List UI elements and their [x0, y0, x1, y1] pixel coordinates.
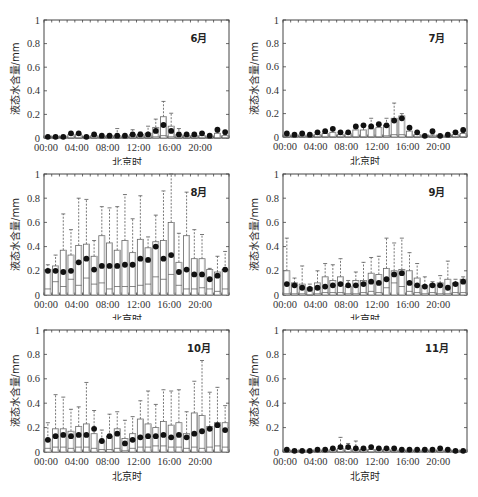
box-plot-item [353, 441, 359, 452]
month-label: 7月 [429, 33, 446, 44]
mean-marker [137, 256, 143, 262]
box-plot-item [292, 448, 298, 454]
box-plot-item [145, 126, 151, 138]
box-plot-item [207, 268, 213, 295]
box-plot-item [130, 130, 136, 138]
y-tick-label: 0.4 [27, 85, 41, 96]
y-axis-label: 液态水含量/mm [9, 198, 21, 271]
mean-marker [391, 272, 397, 278]
box-plot-item [330, 265, 336, 295]
mean-marker [284, 131, 290, 137]
box-plot-item [53, 255, 59, 295]
mean-marker [53, 433, 59, 439]
box-plot-item [99, 133, 105, 139]
box-plot-item [114, 207, 120, 295]
box-plot-item [292, 132, 298, 138]
mean-marker [292, 132, 298, 138]
box-plot-item [91, 411, 97, 452]
box-plot-item [299, 266, 305, 295]
box-plot-item [284, 447, 290, 453]
mean-marker [376, 445, 382, 451]
mean-marker [222, 267, 228, 273]
box-plot-item [191, 381, 197, 452]
box-plot-item [407, 253, 413, 295]
mean-marker [399, 270, 405, 276]
mean-marker [215, 127, 221, 133]
box-plot-item [315, 271, 321, 295]
mean-marker [99, 133, 105, 139]
mean-marker [315, 129, 321, 135]
box-plot-item [91, 241, 97, 295]
mean-marker [114, 263, 120, 269]
box-plot-item [315, 129, 321, 137]
mean-marker [460, 279, 466, 285]
x-tick-label: 04:00 [304, 141, 328, 152]
box-plot-item [168, 391, 174, 452]
y-tick-label: 0.8 [266, 38, 279, 49]
month-label: 11月 [425, 343, 449, 354]
box-plot-item [122, 420, 128, 452]
mean-marker [83, 432, 89, 438]
mean-marker [315, 447, 321, 453]
mean-marker [453, 281, 459, 287]
y-tick-label: 0.8 [266, 349, 279, 360]
x-tick-label: 20:00 [188, 142, 212, 153]
mean-marker [168, 252, 174, 258]
x-axis-label: 北京时 [350, 470, 380, 481]
box-plot-item [284, 131, 290, 137]
box-plot-item [368, 118, 374, 137]
y-tick-label: 1 [35, 169, 40, 180]
box-plot-item [153, 404, 159, 452]
box-plot-item [368, 444, 374, 452]
mean-marker [345, 444, 351, 450]
y-tick-label: 1 [274, 15, 279, 26]
box-plot-item [68, 230, 74, 295]
box-plot-item [153, 215, 159, 295]
mean-marker [207, 133, 213, 139]
box-plot-item [83, 382, 89, 452]
box-plot-item [222, 129, 228, 138]
box-plot-item [430, 128, 436, 137]
box-plot-item [460, 127, 466, 137]
y-tick-label: 0.2 [27, 265, 40, 276]
mean-marker [161, 256, 167, 262]
box-plot-item [345, 443, 351, 452]
mean-marker [168, 128, 174, 134]
mean-marker [53, 134, 59, 140]
chart-svg: 00.20.40.60.8100:0004:0008:0012:0016:002… [0, 155, 239, 320]
mean-marker [130, 262, 136, 268]
box-plot-item [453, 129, 459, 137]
mean-marker [122, 133, 128, 139]
mean-marker [330, 282, 336, 288]
mean-marker [338, 281, 344, 287]
mean-marker [76, 130, 82, 136]
box-plot-item [191, 132, 197, 138]
box-plot-item [207, 392, 213, 452]
box-plot-item [107, 414, 113, 452]
mean-marker [384, 276, 390, 282]
mean-marker [107, 263, 113, 269]
x-tick-label: 16:00 [157, 456, 181, 467]
box-plot-item [122, 133, 128, 139]
mean-marker [107, 433, 113, 439]
month-label: 6月 [191, 33, 208, 44]
mean-marker [161, 432, 167, 438]
mean-marker [60, 269, 66, 275]
mean-marker [322, 284, 328, 290]
box-plot-item [160, 390, 166, 452]
x-tick-label: 16:00 [396, 299, 420, 310]
box-plot-item [307, 284, 313, 295]
mean-marker [299, 285, 305, 291]
x-tick-label: 16:00 [396, 456, 420, 467]
box-plot-item [407, 125, 413, 137]
chart-svg: 00.20.40.60.8100:0004:0008:0012:0016:002… [239, 311, 478, 481]
mean-marker [422, 447, 428, 453]
y-tick-label: 0.6 [266, 61, 279, 72]
chart-panel-sep: 00.20.40.60.8100:0004:0008:0012:0016:002… [239, 155, 478, 315]
mean-marker [91, 267, 97, 273]
x-tick-label: 20:00 [426, 141, 450, 152]
mean-marker [384, 445, 390, 451]
box-plot-item [345, 129, 351, 137]
y-tick-label: 0.4 [266, 398, 280, 409]
mean-marker [137, 434, 143, 440]
